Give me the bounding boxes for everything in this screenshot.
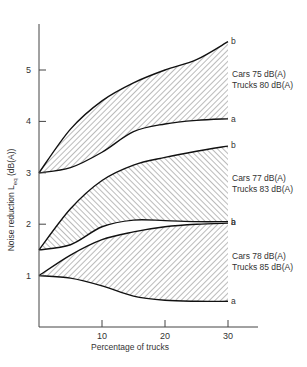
band-labels: baCars 75 dB(A)Trucks 80 dB(A)baCars 77 … [231, 36, 293, 307]
y-tick-label: 1 [26, 271, 31, 281]
x-tick-label: 20 [160, 331, 170, 341]
y-axis-title: Noise reduction Leq (dB(A)) [6, 149, 18, 252]
band-label-3-trucks: Trucks 85 dB(A) [232, 262, 293, 272]
band-label-2-cars: Cars 77 dB(A) [232, 173, 286, 183]
band-label-3-cars: Cars 78 dB(A) [232, 251, 286, 261]
noise-reduction-chart: 12345102030 baCars 75 dB(A)Trucks 80 dB(… [0, 0, 307, 367]
x-axis-title: Percentage of trucks [91, 342, 169, 352]
y-tick-label: 5 [26, 65, 31, 75]
y-tick-label: 2 [26, 219, 31, 229]
band-label-1-cars: Cars 75 dB(A) [232, 69, 286, 79]
y-tick-label: 3 [26, 168, 31, 178]
curve-b-label: b [231, 36, 236, 46]
x-tick-label: 30 [223, 331, 233, 341]
x-tick-label: 10 [97, 331, 107, 341]
hatched-bands [39, 42, 228, 302]
curve-b-label: b [231, 140, 236, 150]
curve-b-label: b [231, 217, 236, 227]
curve-a-label: a [231, 114, 236, 124]
band-label-1-trucks: Trucks 80 dB(A) [232, 80, 293, 90]
band-label-2-trucks: Trucks 83 dB(A) [232, 184, 293, 194]
curve-a-label: a [231, 296, 236, 306]
y-tick-label: 4 [26, 116, 31, 126]
